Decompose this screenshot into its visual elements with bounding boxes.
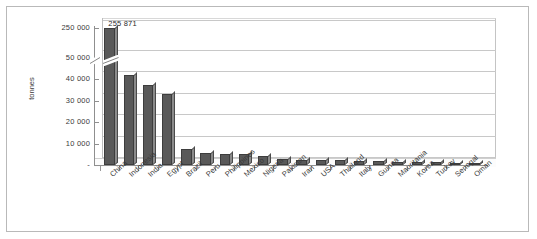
bar-front-face: [220, 154, 231, 165]
bar-front-face: [316, 160, 327, 165]
y-axis-tick-label: 30 000: [66, 96, 90, 105]
bar-usa[interactable]: [316, 160, 327, 165]
bar-front-face: [104, 28, 115, 165]
bar-front-face: [162, 94, 173, 165]
bar-front-face: [373, 161, 384, 165]
plot-area: 255 871: [94, 18, 496, 166]
y-axis-tick-label: 20 000: [66, 117, 90, 126]
y-axis-tick-label: -: [87, 160, 90, 169]
bar-front-face: [124, 75, 135, 165]
x-axis-labels: ChinaIndonesiaIndiaEgyptBrazilPeruPhilip…: [94, 172, 524, 232]
y-axis-tick-label: 250 000: [61, 23, 90, 32]
bar-philippines[interactable]: [220, 154, 231, 165]
bar-indonesia[interactable]: [124, 75, 135, 165]
y-axis-tick-label: 50 000: [66, 53, 90, 62]
bar-china[interactable]: [104, 28, 115, 165]
bar-side-face: [115, 25, 118, 165]
y-axis-tick-labels: 250 00050 00040 00030 00020 00010 000-: [28, 18, 90, 166]
data-label-china: 255 871: [108, 19, 137, 28]
bar-egypt[interactable]: [162, 94, 173, 165]
y-axis-tick-label: 40 000: [66, 74, 90, 83]
x-axis-tick: [100, 166, 101, 171]
bar-front-face: [335, 160, 346, 165]
bar-side-face: [134, 72, 137, 165]
bar-thailand[interactable]: [335, 160, 346, 165]
chart-container: tonnes 250 00050 00040 00030 00020 00010…: [0, 0, 537, 239]
bar-series: [94, 18, 496, 166]
bar-guinea[interactable]: [373, 161, 384, 165]
y-axis-tick-label: 10 000: [66, 139, 90, 148]
bar-side-face: [172, 92, 175, 165]
